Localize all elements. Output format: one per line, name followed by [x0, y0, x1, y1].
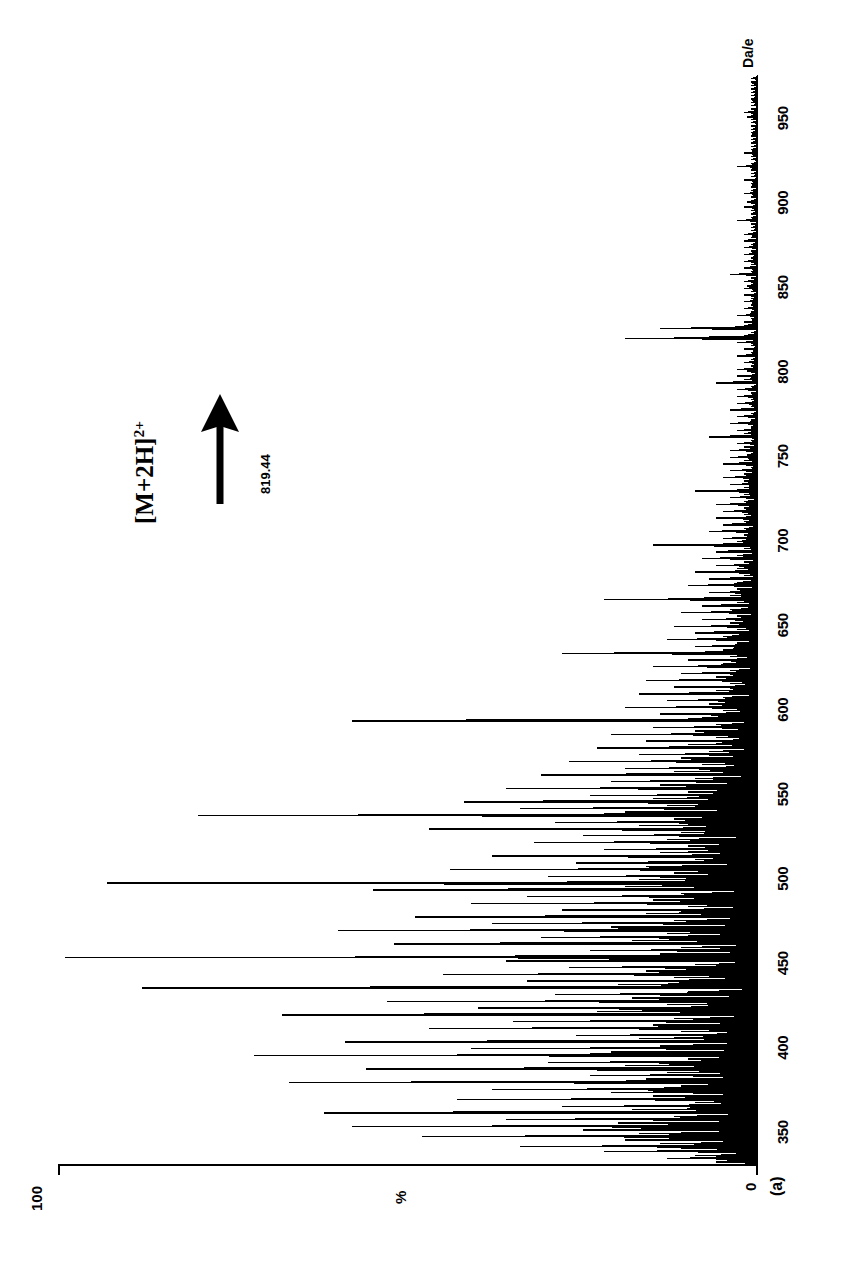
spectrum-peak — [721, 1073, 758, 1074]
x-tick-minor — [752, 826, 758, 828]
spectrum-peak — [716, 1159, 758, 1160]
spectrum-peak — [680, 1012, 758, 1013]
spectrum-peak — [624, 1137, 758, 1138]
spectrum-peak — [708, 1110, 758, 1111]
x-tick-major — [747, 792, 758, 794]
x-tick-minor — [752, 809, 758, 811]
y-tick-100 — [58, 1166, 60, 1175]
spectrum-peak — [639, 1029, 758, 1030]
spectrum-peak — [647, 904, 758, 905]
spectrum-peak — [718, 701, 758, 702]
spectrum-peak — [660, 995, 758, 996]
spectrum-peak — [679, 981, 758, 982]
spectrum-peak — [693, 1093, 758, 1094]
spectrum-peak — [650, 843, 758, 844]
x-tick-minor — [752, 82, 758, 84]
spectrum-peak — [518, 958, 758, 959]
mass-spectrum-figure: Da/e (a) 100 % 0 [M+2H]2+ 819.44 3504004… — [0, 0, 844, 1266]
x-tick-label: 400 — [774, 1036, 791, 1060]
spectrum-peak — [723, 785, 758, 786]
spectrum-peak — [708, 850, 758, 851]
spectrum-peak — [734, 765, 758, 766]
spectrum-peak — [711, 866, 758, 867]
spectrum-peak — [444, 883, 758, 884]
spectrum-peak — [729, 613, 758, 614]
plot-area — [58, 76, 758, 1166]
x-tick-label: 600 — [774, 698, 791, 722]
x-tick-minor — [752, 167, 758, 169]
x-tick-minor — [752, 133, 758, 135]
x-tick-minor — [752, 471, 758, 473]
spectrum-peak — [727, 626, 758, 627]
x-tick-major — [747, 539, 758, 541]
spectrum-peak — [549, 1056, 758, 1057]
spectrum-peak — [677, 951, 758, 952]
spectrum-peak — [694, 1066, 758, 1067]
y-axis-min-label: 0 — [742, 1183, 759, 1191]
spectrum-peak — [702, 338, 758, 339]
spectrum-peak — [714, 971, 758, 972]
spectrum-peak — [664, 809, 758, 810]
spectrum-peak — [649, 897, 758, 898]
x-tick-minor — [752, 691, 758, 693]
x-tick-major — [747, 623, 758, 625]
x-tick-minor — [752, 894, 758, 896]
spectrum-peak — [695, 985, 758, 986]
x-tick-minor — [752, 573, 758, 575]
spectrum-peak — [697, 812, 758, 813]
spectrum-peak — [700, 880, 758, 881]
x-tick-minor — [752, 184, 758, 186]
rotated-figure-wrapper: Da/e (a) 100 % 0 [M+2H]2+ 819.44 3504004… — [0, 0, 844, 1266]
spectrum-peak — [693, 735, 759, 736]
x-tick-minor — [752, 251, 758, 253]
x-tick-minor — [752, 488, 758, 490]
spectrum-peak — [730, 687, 758, 688]
spectrum-peak — [676, 762, 758, 763]
spectrum-peak — [634, 975, 758, 976]
spectrum-peak — [699, 795, 758, 796]
spectrum-peak — [642, 961, 758, 962]
spectrum-peak — [736, 964, 758, 965]
x-tick-minor — [752, 437, 758, 439]
spectrum-peak — [648, 1089, 758, 1090]
spectrum-peak — [723, 1059, 758, 1060]
figure-page: Da/e (a) 100 % 0 [M+2H]2+ 819.44 3504004… — [0, 0, 844, 1266]
spectrum-peak — [681, 910, 758, 911]
x-tick-minor — [752, 505, 758, 507]
spectrum-peak — [693, 1076, 758, 1077]
x-tick-minor — [752, 944, 758, 946]
spectrum-peak — [725, 1144, 758, 1145]
spectrum-peak — [655, 1100, 758, 1101]
x-tick-major — [747, 877, 758, 879]
spectrum-peak — [663, 924, 758, 925]
y-axis-title: % — [392, 1191, 409, 1204]
spectrum-peak — [734, 586, 758, 587]
y-tick-0 — [756, 1166, 758, 1175]
spectrum-peak — [707, 667, 758, 668]
x-tick-minor — [752, 589, 758, 591]
spectrum-peak — [732, 1086, 758, 1087]
spectrum-peak — [574, 1083, 758, 1084]
spectrum-peak — [736, 846, 758, 847]
x-tick-minor — [752, 1113, 758, 1115]
spectrum-peak — [697, 748, 758, 749]
spectrum-peak — [588, 944, 758, 945]
spectrum-peak — [651, 775, 758, 776]
x-tick-minor — [752, 1147, 758, 1149]
spectrum-peak — [717, 900, 758, 901]
spectrum-peak — [599, 890, 758, 891]
x-tick-label: 800 — [774, 360, 791, 384]
spectrum-peak — [714, 545, 758, 546]
x-tick-minor — [752, 758, 758, 760]
spectrum-peak — [729, 1103, 758, 1104]
spectrum-peak — [735, 620, 758, 621]
spectrum-peak — [698, 1152, 758, 1153]
spectrum-peak — [717, 1018, 758, 1019]
x-tick-label: 850 — [774, 275, 791, 299]
spectrum-peak — [690, 1106, 758, 1107]
spectrum-peak — [730, 1155, 758, 1156]
x-tick-major — [747, 201, 758, 203]
spectrum-peak — [729, 920, 758, 921]
x-tick-major — [747, 961, 758, 963]
x-tick-minor — [752, 911, 758, 913]
